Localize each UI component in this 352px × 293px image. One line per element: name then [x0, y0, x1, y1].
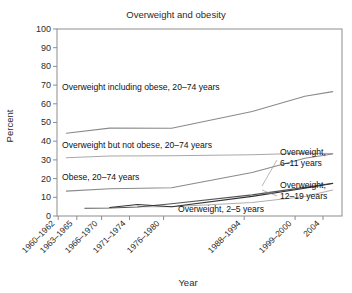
- y-tick-10: 10: [41, 192, 51, 202]
- chart-title: Overweight and obesity: [126, 9, 226, 20]
- x-tick-marks: [58, 216, 323, 220]
- y-tick-marks: [53, 29, 57, 216]
- x-tick-labels: 1960–1962 1963–1965 1966–1970 1971–1974 …: [20, 218, 322, 255]
- callout-overweight-6-11-line1: Overweight,: [280, 147, 326, 157]
- annotation-obese: Obese, 20–74 years: [62, 172, 139, 182]
- y-axis-label: Percent: [4, 109, 15, 142]
- y-tick-80: 80: [41, 61, 51, 71]
- callout-overweight-6-11-line2: 6–11 years: [280, 158, 322, 168]
- series-overweight-including-obese: [66, 92, 332, 134]
- overweight-obesity-line-chart: Overweight and obesity Percent Year 100 …: [0, 0, 352, 293]
- y-tick-100: 100: [36, 24, 51, 34]
- x-tick-1999-2000: 1999–2000: [257, 218, 294, 255]
- y-tick-50: 50: [41, 117, 51, 127]
- chart-container: Overweight and obesity Percent Year 100 …: [0, 0, 352, 293]
- y-tick-70: 70: [41, 80, 51, 90]
- y-tick-60: 60: [41, 99, 51, 109]
- x-axis-label: Year: [178, 277, 197, 288]
- y-tick-30: 30: [41, 155, 51, 165]
- callout-overweight-12-19-line1: Overweight,: [280, 180, 326, 190]
- y-axis-ticks: 100 90 80 70 60 50 40 30 20 10 0: [36, 24, 51, 221]
- y-tick-90: 90: [41, 43, 51, 53]
- x-tick-1988-1994: 1988–1994: [206, 218, 243, 255]
- y-tick-40: 40: [41, 136, 51, 146]
- x-tick-1976-1980: 1976–1980: [125, 218, 162, 255]
- annotation-overweight-including-obese: Overweight including obese, 20–74 years: [62, 82, 220, 92]
- x-tick-2004: 2004: [301, 218, 321, 238]
- annotation-overweight-but-not-obese: Overweight but not obese, 20–74 years: [62, 140, 212, 150]
- callout-overweight-12-19-line2: 12–19 years: [280, 191, 327, 201]
- y-tick-20: 20: [41, 174, 51, 184]
- inline-annotations: Overweight including obese, 20–74 years …: [62, 82, 264, 214]
- annotation-overweight-2-5: Overweight, 2–5 years: [178, 204, 264, 214]
